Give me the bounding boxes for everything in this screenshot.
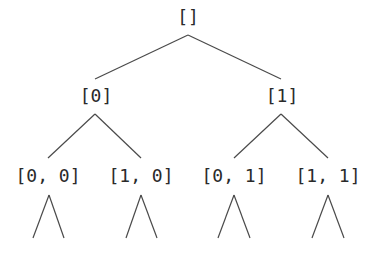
- tree-edge: [48, 114, 95, 158]
- tree-edge: [95, 114, 141, 158]
- tree-edge: [95, 35, 188, 79]
- tree-edge: [234, 114, 281, 158]
- tree-edge: [218, 195, 234, 238]
- tree-edge: [33, 195, 49, 238]
- tree-edges: [0, 0, 383, 255]
- node-root: []: [177, 7, 199, 27]
- tree-edge: [328, 195, 344, 238]
- node-0-1: [0, 1]: [201, 166, 266, 186]
- node-0: [0]: [80, 86, 113, 106]
- tree-edge: [281, 114, 328, 158]
- tree-edge: [49, 195, 64, 238]
- tree-edge: [312, 195, 328, 238]
- node-1-1: [1, 1]: [295, 166, 360, 186]
- node-1: [1]: [266, 86, 299, 106]
- tree-edge: [188, 35, 281, 79]
- tree-edge: [126, 195, 141, 238]
- node-1-0: [1, 0]: [108, 166, 173, 186]
- tree-diagram: [] [0] [1] [0, 0] [1, 0] [0, 1] [1, 1]: [0, 0, 383, 255]
- tree-edge: [141, 195, 157, 238]
- tree-edge: [234, 195, 250, 238]
- node-0-0: [0, 0]: [15, 166, 80, 186]
